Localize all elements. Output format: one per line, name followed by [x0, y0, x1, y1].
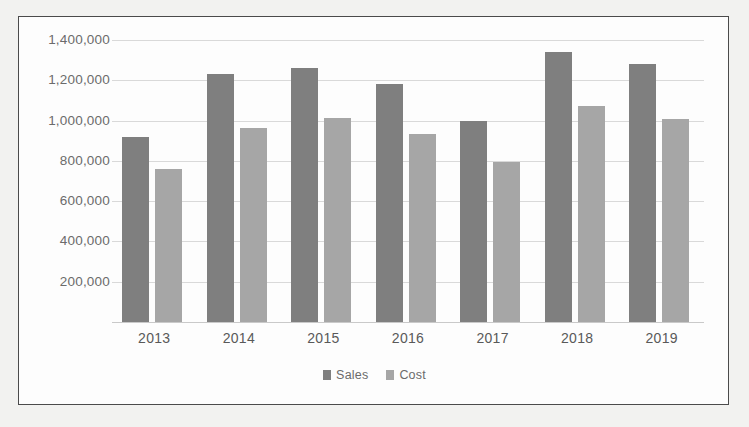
bar-sales-2018[interactable] [545, 52, 572, 322]
bar-group [619, 30, 704, 322]
bar-cost-2013[interactable] [155, 169, 182, 322]
y-axis-tick-label: 400,000 [22, 235, 110, 249]
bar-sales-2015[interactable] [291, 68, 318, 322]
y-axis-tick-label: 1,200,000 [22, 74, 110, 88]
y-axis-tick-label: 1,000,000 [22, 114, 110, 128]
bar-sales-2016[interactable] [376, 84, 403, 322]
chart-legend: SalesCost [0, 368, 749, 382]
bar-group [366, 30, 451, 322]
bar-cost-2017[interactable] [493, 162, 520, 322]
y-axis-tick-label: 200,000 [22, 275, 110, 289]
legend-item-cost[interactable]: Cost [386, 368, 426, 382]
x-axis-tick-label-2013: 2013 [114, 330, 194, 346]
bar-series-group [112, 30, 704, 322]
plot-area [112, 30, 704, 322]
x-axis-tick-label-2018: 2018 [537, 330, 617, 346]
x-axis-tick-labels: 2013201420152016201720182019 [112, 330, 704, 352]
x-axis-tick-label-2016: 2016 [368, 330, 448, 346]
legend-item-sales[interactable]: Sales [323, 368, 368, 382]
bar-sales-2017[interactable] [460, 121, 487, 322]
bar-sales-2014[interactable] [207, 74, 234, 322]
bar-cost-2014[interactable] [240, 128, 267, 322]
x-axis-tick-label-2014: 2014 [199, 330, 279, 346]
x-axis-baseline [112, 322, 704, 323]
bar-sales-2019[interactable] [629, 64, 656, 322]
bar-cost-2018[interactable] [578, 106, 605, 322]
y-axis-tick-labels: 200,000400,000600,000800,0001,000,0001,2… [22, 0, 110, 427]
legend-swatch-cost [386, 370, 394, 380]
y-axis-tick-label: 600,000 [22, 194, 110, 208]
bar-cost-2019[interactable] [662, 119, 689, 322]
y-axis-tick-label: 800,000 [22, 154, 110, 168]
bar-group [535, 30, 620, 322]
bar-group [450, 30, 535, 322]
x-axis-tick-label-2019: 2019 [622, 330, 702, 346]
legend-swatch-sales [323, 370, 331, 380]
bar-group [197, 30, 282, 322]
bar-cost-2016[interactable] [409, 134, 436, 322]
y-axis-tick-label: 1,400,000 [22, 33, 110, 47]
bar-group [112, 30, 197, 322]
x-axis-tick-label-2015: 2015 [283, 330, 363, 346]
bar-sales-2013[interactable] [122, 137, 149, 322]
bar-group [281, 30, 366, 322]
legend-label-sales: Sales [336, 368, 368, 382]
legend-label-cost: Cost [399, 368, 426, 382]
x-axis-tick-label-2017: 2017 [453, 330, 533, 346]
bar-cost-2015[interactable] [324, 118, 351, 322]
